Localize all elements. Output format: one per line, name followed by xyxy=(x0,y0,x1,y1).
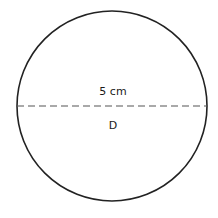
diameter-label: D xyxy=(109,119,117,132)
measurement-label: 5 cm xyxy=(99,85,126,98)
circle-diagram: 5 cm D xyxy=(0,0,218,218)
